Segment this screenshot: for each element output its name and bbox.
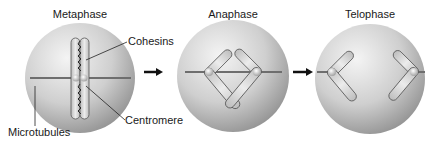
label-microtubules: Microtubules [8, 126, 71, 138]
centromere-left [73, 75, 80, 82]
arrow-icon [293, 68, 313, 76]
arrow-icon [144, 68, 163, 76]
label-centromere: Centromere [125, 114, 183, 126]
anaphase-stage: Anaphase [177, 8, 289, 132]
cell-anaphase [177, 20, 289, 132]
centromere-right [81, 75, 88, 82]
label-cohesins: Cohesins [128, 35, 174, 47]
stage-title-telophase: Telophase [345, 8, 395, 20]
cell-division-diagram: Metaphase Cohesins Centromere Microtubul… [0, 0, 437, 142]
stage-title-metaphase: Metaphase [53, 8, 107, 20]
telophase-stage: Telophase [315, 8, 425, 134]
stage-title-anaphase: Anaphase [208, 8, 258, 20]
